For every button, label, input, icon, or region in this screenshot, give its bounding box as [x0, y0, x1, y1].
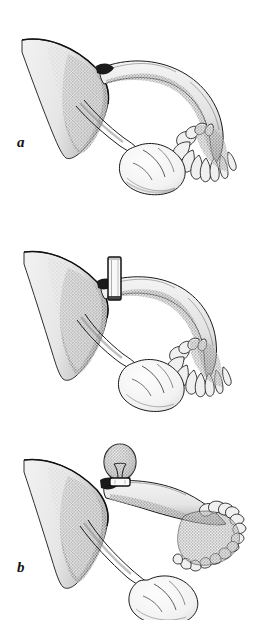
fimbriae-stipple	[178, 511, 240, 565]
mesosalpinx-fan	[22, 39, 109, 158]
occlusion-clip	[108, 257, 121, 300]
panel-a: a	[0, 0, 258, 210]
mesosalpinx-fan	[24, 252, 108, 381]
figure-root: a	[0, 0, 258, 620]
panel-c: c	[0, 420, 258, 620]
panel-b: b	[0, 210, 258, 420]
mesosalpinx-fan	[24, 460, 108, 589]
panel-label-a: a	[17, 135, 25, 150]
ovary	[129, 576, 198, 620]
